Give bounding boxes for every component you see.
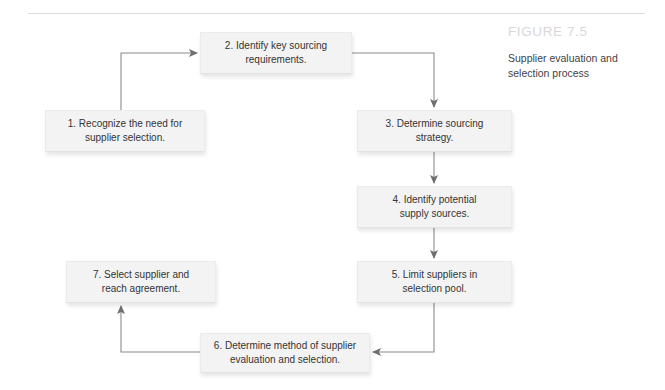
process-node-3-label: 3. Determine sourcing strategy.	[386, 117, 484, 145]
process-node-1-label: 1. Recognize the need for supplier selec…	[68, 117, 183, 145]
process-node-5-label: 5. Limit suppliers in selection pool.	[392, 268, 478, 296]
process-node-5[interactable]: 5. Limit suppliers in selection pool.	[357, 261, 512, 303]
process-node-7-label: 7. Select supplier and reach agreement.	[93, 268, 189, 296]
figure-container: FIGURE 7.5 Supplier evaluation and selec…	[0, 0, 665, 390]
process-node-2-label: 2. Identify key sourcing requirements.	[225, 39, 327, 67]
process-node-6[interactable]: 6. Determine method of supplier evaluati…	[200, 333, 370, 373]
process-node-6-label: 6. Determine method of supplier evaluati…	[214, 339, 356, 367]
process-node-7[interactable]: 7. Select supplier and reach agreement.	[66, 261, 216, 303]
process-node-4[interactable]: 4. Identify potential supply sources.	[357, 186, 512, 228]
edge-2-to-3	[352, 53, 434, 107]
process-node-2[interactable]: 2. Identify key sourcing requirements.	[200, 32, 352, 74]
process-node-1[interactable]: 1. Recognize the need for supplier selec…	[45, 110, 205, 152]
process-node-3[interactable]: 3. Determine sourcing strategy.	[357, 110, 512, 152]
edge-5-to-6	[373, 303, 434, 352]
edge-6-to-7	[121, 306, 200, 352]
process-node-4-label: 4. Identify potential supply sources.	[393, 193, 477, 221]
edge-1-to-2	[121, 53, 197, 110]
